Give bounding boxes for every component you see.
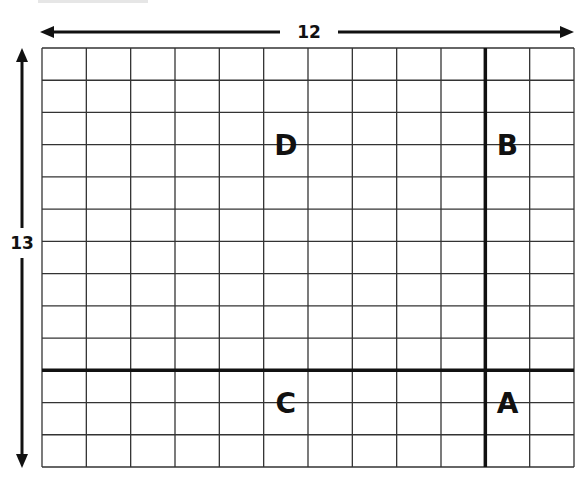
grid-diagram: 12 13 DBCA	[0, 0, 588, 481]
region-label-d: D	[274, 129, 297, 162]
region-label-a: A	[497, 387, 519, 420]
region-label-b: B	[497, 129, 518, 162]
arrowhead-left-icon	[40, 26, 54, 38]
arrowhead-up-icon	[16, 48, 28, 62]
width-label: 12	[297, 22, 321, 42]
region-label-c: C	[276, 387, 297, 420]
grid	[42, 48, 574, 467]
height-dimension-arrow: 13	[10, 48, 34, 468]
arrowhead-right-icon	[560, 26, 574, 38]
width-dimension-arrow: 12	[40, 22, 574, 42]
height-label: 13	[10, 233, 34, 253]
arrowhead-down-icon	[16, 454, 28, 468]
cutoff-header-text	[38, 0, 148, 3]
